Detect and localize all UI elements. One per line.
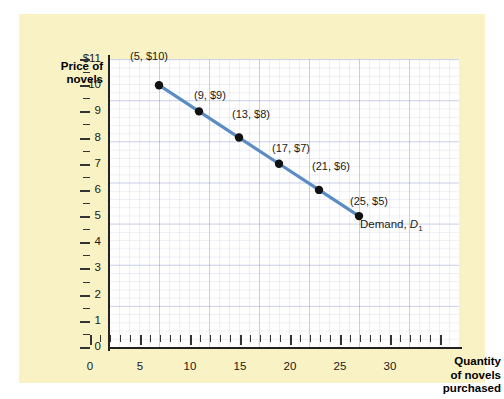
data-point-label: (17, $7) <box>272 143 310 154</box>
chart-panel: Price of novels Quantity of novels purch… <box>19 14 485 383</box>
demand-label-symbol: D <box>410 218 418 230</box>
data-point-marker <box>235 133 243 141</box>
data-point-label: (9, $9) <box>194 90 226 101</box>
demand-label-text: Demand, <box>360 218 410 230</box>
data-point-marker <box>315 186 323 194</box>
data-point-marker <box>275 160 283 168</box>
demand-curve-line <box>159 85 359 216</box>
data-point-label: (21, $6) <box>312 161 350 172</box>
data-point-label: (25, $5) <box>350 196 388 207</box>
data-point-marker <box>155 81 163 89</box>
demand-label-subscript: 1 <box>418 224 422 233</box>
data-point-label: (13, $8) <box>232 109 270 120</box>
demand-curve-svg <box>19 14 504 399</box>
demand-curve-label: Demand, D1 <box>360 218 423 233</box>
data-point-label: (5, $10) <box>130 51 168 62</box>
data-point-marker <box>195 107 203 115</box>
